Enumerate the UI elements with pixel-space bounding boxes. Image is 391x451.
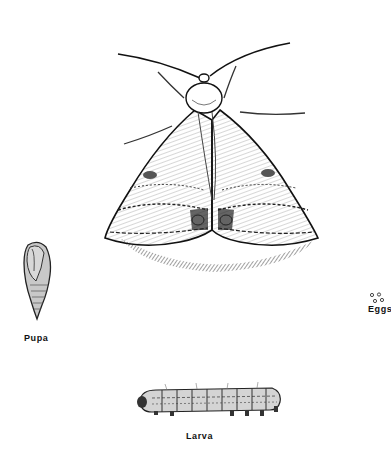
larva-label: Larva	[186, 431, 213, 441]
pupa-figure	[20, 241, 56, 321]
moth-icon	[100, 40, 330, 280]
adult-moth-figure	[100, 40, 330, 280]
eggs-label: Eggs	[368, 304, 391, 314]
illustration-canvas: Pupa Eggs	[0, 0, 391, 451]
pupa-icon	[20, 241, 56, 321]
larva-figure	[132, 380, 282, 420]
larva-icon	[132, 380, 282, 420]
pupa-label: Pupa	[24, 333, 48, 343]
